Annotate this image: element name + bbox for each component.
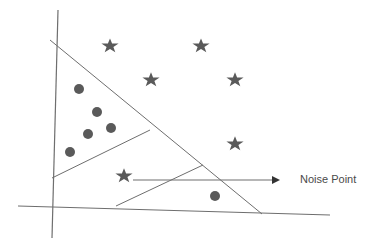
diagram-canvas: Noise Point	[0, 0, 380, 252]
circle-point-icon	[210, 191, 220, 201]
circle-point-icon	[65, 147, 75, 157]
star-point-icon	[226, 136, 243, 150]
circle-point-icon	[74, 84, 84, 94]
x-axis-line	[18, 206, 330, 215]
star-class-points	[101, 38, 243, 182]
noise-point-label: Noise Point	[300, 173, 356, 185]
axes	[18, 10, 330, 238]
noise-arrow	[133, 176, 280, 184]
star-point-icon	[101, 38, 118, 52]
circle-point-icon	[106, 123, 116, 133]
star-point-icon	[142, 72, 159, 86]
circle-class-points	[65, 84, 220, 201]
arrowhead-icon	[272, 176, 280, 184]
boundary-line	[50, 40, 262, 214]
decision-boundaries	[50, 40, 262, 214]
star-point-icon	[226, 72, 243, 86]
star-point-icon	[192, 38, 209, 52]
star-point-icon	[115, 168, 132, 182]
classification-diagram	[0, 0, 380, 252]
circle-point-icon	[92, 107, 102, 117]
circle-point-icon	[83, 129, 93, 139]
boundary-line	[116, 165, 203, 206]
